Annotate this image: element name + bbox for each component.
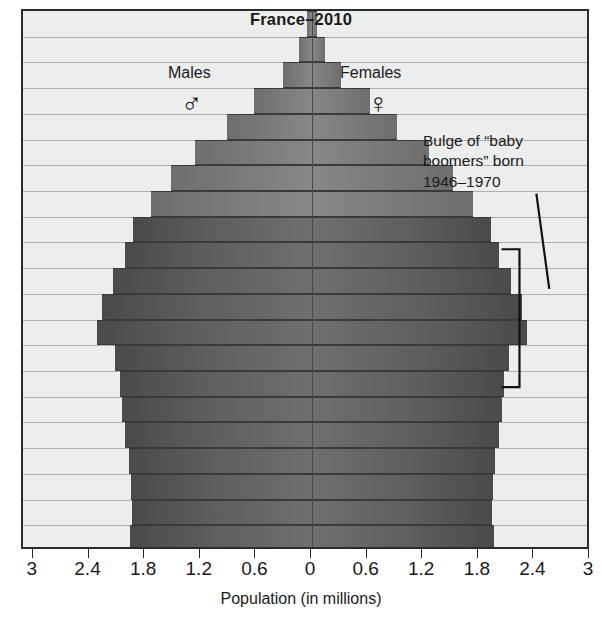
bar-female (312, 371, 504, 397)
bar-male (283, 62, 312, 88)
x-axis-tick (254, 549, 255, 558)
bar-male (125, 242, 312, 268)
bar-male (130, 525, 312, 549)
x-axis-tick-label: 0.6 (352, 558, 378, 580)
x-axis-tick (588, 549, 589, 558)
bar-male (122, 397, 312, 423)
bar-male (102, 294, 312, 320)
age-band-row (23, 37, 587, 63)
bar-female (312, 217, 491, 243)
age-band-row (23, 345, 587, 371)
age-band-row (23, 448, 587, 474)
annotation-line-2: boomers” born (423, 151, 524, 171)
x-axis-tick-label: 2.4 (519, 558, 545, 580)
x-axis-tick (32, 549, 33, 558)
mars-symbol-icon: ♂ (181, 90, 202, 118)
center-axis-line (312, 11, 313, 547)
bar-male (120, 371, 312, 397)
x-axis-tick-label: 1.2 (408, 558, 434, 580)
population-pyramid-chart: Males ♂ Females ♀ Bulge of “baby boomers… (0, 0, 602, 632)
bar-female (312, 525, 494, 549)
baby-boomer-annotation: Bulge of “baby boomers” born 1946–1970 (423, 131, 524, 192)
bar-female (312, 88, 370, 114)
series-label-females: Females (340, 64, 401, 82)
x-axis-tick-label: 1.8 (130, 558, 156, 580)
x-axis-tick-label: 3 (583, 558, 594, 580)
age-band-row (23, 217, 587, 243)
x-axis-title: Population (in millions) (0, 590, 602, 608)
age-band-row (23, 474, 587, 500)
age-band-row (23, 242, 587, 268)
bar-male (133, 217, 312, 243)
chart-title: France–2010 (0, 10, 602, 29)
x-axis-tick-label: 1.8 (464, 558, 490, 580)
x-axis-tick-label: 1.2 (186, 558, 212, 580)
bar-male (299, 37, 312, 63)
bar-male (125, 422, 312, 448)
x-axis-tick (310, 549, 311, 558)
bar-female (312, 191, 473, 217)
bar-female (312, 474, 493, 500)
bar-female (312, 62, 341, 88)
bars-layer (23, 11, 587, 547)
bar-male (151, 191, 312, 217)
bar-female (312, 242, 499, 268)
x-axis-tick (532, 549, 533, 558)
bar-female (312, 294, 522, 320)
x-axis-tick (199, 549, 200, 558)
bar-male (254, 88, 312, 114)
venus-symbol-icon: ♀ (368, 90, 389, 118)
bar-female (312, 37, 325, 63)
age-band-row (23, 191, 587, 217)
bar-female (312, 345, 509, 371)
age-band-row (23, 268, 587, 294)
x-axis-tick-label: 0 (305, 558, 316, 580)
bar-male (113, 268, 312, 294)
age-band-row (23, 500, 587, 526)
annotation-line-3: 1946–1970 (423, 172, 524, 192)
x-axis-tick (366, 549, 367, 558)
x-axis-tick-label: 2.4 (74, 558, 100, 580)
x-axis-tick (143, 549, 144, 558)
age-band-row (23, 422, 587, 448)
bar-male (171, 165, 312, 191)
age-band-row (23, 371, 587, 397)
x-axis-tick (421, 549, 422, 558)
bar-female (312, 448, 495, 474)
x-axis-tick-label: 0.6 (241, 558, 267, 580)
annotation-line-1: Bulge of “baby (423, 131, 524, 151)
bar-male (227, 114, 312, 140)
age-band-row (23, 397, 587, 423)
bar-female (312, 268, 511, 294)
bar-male (97, 320, 312, 346)
bar-male (115, 345, 312, 371)
bar-female (312, 320, 527, 346)
age-band-row (23, 294, 587, 320)
bar-female (312, 140, 429, 166)
bar-female (312, 500, 492, 526)
bar-female (312, 397, 502, 423)
bar-male (131, 474, 312, 500)
y-axis-age-labels: 100+95–9990–9485–8980–8475–7970–7465–696… (0, 9, 20, 549)
bar-female (312, 422, 499, 448)
bar-male (129, 448, 312, 474)
x-axis-tick (88, 549, 89, 558)
x-axis-tick-label: 3 (27, 558, 38, 580)
x-axis-tick (477, 549, 478, 558)
x-axis-tick-labels: 32.41.81.20.600.61.21.82.43 (0, 558, 602, 584)
series-label-males: Males (168, 64, 211, 82)
plot-area: Males ♂ Females ♀ Bulge of “baby boomers… (21, 9, 589, 549)
age-band-row (23, 320, 587, 346)
age-band-row (23, 62, 587, 88)
age-band-row (23, 525, 587, 549)
bar-male (195, 140, 312, 166)
bar-male (132, 500, 312, 526)
age-band-row (23, 88, 587, 114)
